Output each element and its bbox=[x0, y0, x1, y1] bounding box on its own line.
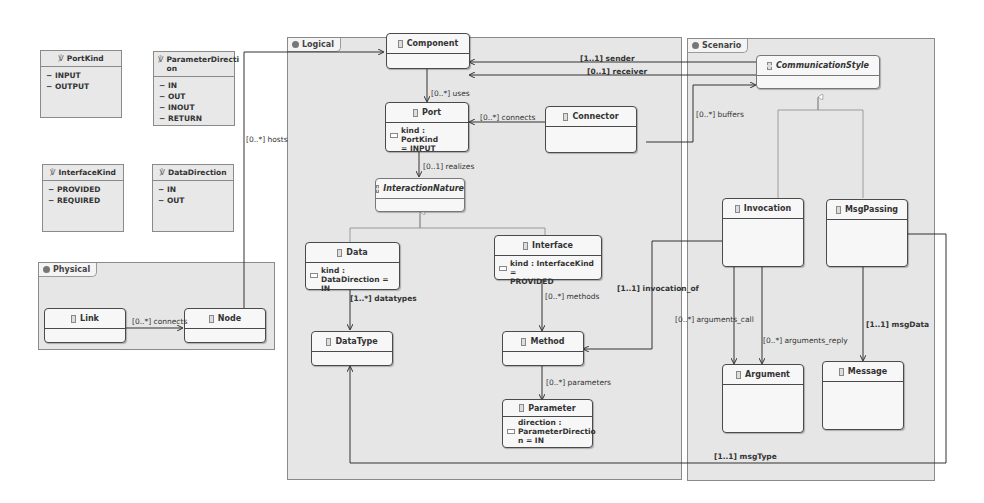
package-scenario-tab: Scenario bbox=[688, 39, 748, 53]
enum-name: PortKind bbox=[67, 54, 104, 63]
label-methods: [0..*] methods bbox=[545, 292, 599, 301]
class-node[interactable]: Node bbox=[184, 308, 266, 343]
attribute-icon bbox=[310, 273, 318, 278]
class-header: Data bbox=[306, 243, 399, 263]
enum-literal: − OUT bbox=[153, 195, 233, 206]
label-receiver: [0..1] receiver bbox=[587, 67, 647, 76]
label-connects-port: [0..*] connects bbox=[480, 113, 535, 122]
package-icon bbox=[292, 41, 299, 48]
class-connector[interactable]: Connector bbox=[545, 106, 637, 153]
class-header: Component bbox=[387, 34, 469, 54]
enum-literal: − PROVIDED bbox=[43, 184, 123, 195]
enum-icon: ℣ bbox=[159, 168, 164, 177]
attribute-icon bbox=[499, 266, 507, 271]
label-arguments-reply: [0..*] arguments_reply bbox=[763, 336, 848, 345]
class-component[interactable]: Component bbox=[386, 33, 470, 69]
enum-literal: − OUT bbox=[154, 91, 234, 102]
label-datatypes: [1..*] datatypes bbox=[350, 294, 417, 303]
class-attribute: direction : ParameterDirectio n = IN bbox=[503, 417, 592, 445]
class-icon bbox=[839, 368, 844, 376]
class-data[interactable]: Data kind : DataDirection = IN bbox=[305, 242, 400, 290]
class-invocation[interactable]: Invocation bbox=[722, 198, 804, 267]
enum-header: ℣ ParameterDirecti on bbox=[154, 52, 234, 77]
enum-datadirection[interactable]: ℣ DataDirection − IN − OUT bbox=[152, 164, 234, 232]
enum-header: ℣ InterfaceKind bbox=[43, 165, 123, 181]
class-header: MsgPassing bbox=[827, 200, 907, 220]
enum-literal: − IN bbox=[154, 80, 234, 91]
class-port[interactable]: Port kind : PortKind = INPUT bbox=[385, 102, 469, 152]
class-icon bbox=[736, 371, 741, 379]
class-icon bbox=[836, 206, 841, 214]
enum-name: ParameterDirecti on bbox=[166, 55, 239, 73]
class-icon bbox=[337, 249, 342, 257]
enum-interfacekind[interactable]: ℣ InterfaceKind − PROVIDED − REQUIRED bbox=[42, 164, 124, 232]
abstract-class-icon bbox=[376, 185, 379, 193]
class-interface[interactable]: Interface kind : InterfaceKind = PROVIDE… bbox=[494, 235, 602, 280]
package-logical-label: Logical bbox=[302, 40, 334, 49]
enum-literal: − INOUT bbox=[154, 102, 234, 113]
class-header: Interface bbox=[495, 236, 601, 256]
class-icon bbox=[735, 205, 740, 213]
enum-icon: ℣ bbox=[50, 168, 55, 177]
class-header: InteractionNature bbox=[376, 179, 464, 199]
class-argument[interactable]: Argument bbox=[722, 364, 804, 433]
class-icon bbox=[71, 315, 76, 323]
class-header: Message bbox=[823, 362, 903, 382]
class-icon bbox=[563, 113, 568, 121]
label-invocation-of: [1..1] invocation_of bbox=[617, 284, 699, 293]
class-datatype[interactable]: DataType bbox=[311, 331, 393, 366]
class-icon bbox=[209, 315, 214, 323]
class-icon bbox=[413, 109, 418, 117]
enum-parameterdirection[interactable]: ℣ ParameterDirecti on − IN − OUT − INOUT… bbox=[153, 51, 235, 126]
attribute-icon bbox=[390, 133, 398, 138]
enum-portkind[interactable]: ℣ PortKind − INPUT − OUTPUT bbox=[40, 50, 122, 118]
package-logical-tab: Logical bbox=[288, 38, 341, 52]
enum-header: ℣ PortKind bbox=[41, 51, 121, 67]
class-icon bbox=[398, 40, 403, 48]
package-physical-label: Physical bbox=[53, 265, 90, 274]
class-icon bbox=[519, 404, 524, 412]
class-link[interactable]: Link bbox=[44, 308, 126, 343]
package-physical-tab: Physical bbox=[39, 263, 97, 277]
class-parameter[interactable]: Parameter direction : ParameterDirectio … bbox=[502, 399, 593, 448]
class-communication-style[interactable]: CommunicationStyle bbox=[756, 55, 880, 89]
package-icon bbox=[692, 42, 699, 49]
label-msgtype: [1..1] msgType bbox=[714, 452, 777, 461]
label-realizes: [0..1] realizes bbox=[423, 162, 474, 171]
class-header: Port bbox=[386, 103, 468, 123]
class-message[interactable]: Message bbox=[822, 361, 904, 430]
label-arguments-call: [0..*] arguments_call bbox=[675, 315, 754, 324]
class-icon bbox=[521, 338, 526, 346]
enum-icon: ℣ bbox=[58, 54, 63, 63]
enum-literal: − IN bbox=[153, 184, 233, 195]
label-buffers: [0..*] buffers bbox=[696, 110, 744, 119]
enum-name: InterfaceKind bbox=[59, 168, 116, 177]
class-msgpassing[interactable]: MsgPassing bbox=[826, 199, 908, 267]
label-msgdata: [1..1] msgData bbox=[866, 320, 929, 329]
class-header: Argument bbox=[723, 365, 803, 385]
class-icon bbox=[523, 242, 528, 250]
enum-name: DataDirection bbox=[168, 168, 227, 177]
label-uses: [0..*] uses bbox=[431, 89, 470, 98]
package-scenario-label: Scenario bbox=[702, 41, 741, 50]
class-header: Method bbox=[503, 332, 583, 352]
package-icon bbox=[43, 266, 50, 273]
label-connects-link: [0..*] connects bbox=[132, 317, 187, 326]
enum-literal: − OUTPUT bbox=[41, 81, 121, 92]
label-parameters: [0..*] parameters bbox=[546, 378, 611, 387]
label-sender: [1..1] sender bbox=[580, 54, 635, 63]
enum-literal: − REQUIRED bbox=[43, 195, 123, 206]
class-header: Node bbox=[185, 309, 265, 329]
class-header: DataType bbox=[312, 332, 392, 352]
class-header: Invocation bbox=[723, 199, 803, 219]
label-hosts: [0..*] hosts bbox=[246, 135, 288, 144]
attribute-icon bbox=[507, 429, 515, 434]
class-attribute: kind : PortKind = INPUT bbox=[386, 123, 468, 153]
class-method[interactable]: Method bbox=[502, 331, 584, 366]
class-header: Connector bbox=[546, 107, 636, 127]
class-header: CommunicationStyle bbox=[757, 56, 879, 76]
class-icon bbox=[326, 338, 331, 346]
class-header: Link bbox=[45, 309, 125, 329]
class-interaction-nature[interactable]: InteractionNature bbox=[375, 178, 465, 212]
class-header: Parameter bbox=[503, 400, 592, 417]
